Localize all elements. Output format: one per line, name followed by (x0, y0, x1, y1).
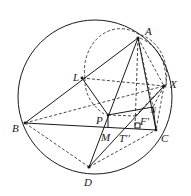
label-m: M (100, 131, 111, 143)
point-x (162, 84, 165, 87)
diagram-svg: A X N C B D L P M F' T'' (0, 0, 191, 196)
segment-lp (82, 78, 108, 115)
dashed-pf (108, 115, 135, 116)
point-a (136, 36, 139, 39)
point-p (107, 114, 110, 117)
label-n: N (149, 105, 157, 115)
dashed-ax (138, 38, 164, 86)
label-a: A (144, 25, 152, 37)
label-t-double-prime: T'' (119, 132, 130, 144)
geometry-diagram: A X N C B D L P M F' T'' (0, 0, 191, 196)
segment-bc (25, 123, 156, 130)
point-b (24, 122, 27, 125)
dashed-an (138, 38, 153, 107)
label-d: D (83, 176, 92, 188)
label-f-prime: F' (139, 115, 150, 127)
dashed-lx (82, 78, 164, 86)
label-p: P (95, 114, 103, 126)
label-l: L (72, 71, 79, 83)
dashed-circle-arc (84, 29, 166, 88)
dashed-arc-ax (140, 38, 166, 88)
segment-pn (108, 107, 153, 115)
label-x: X (169, 78, 178, 90)
segment-ab (25, 38, 138, 123)
segment-ad (89, 38, 138, 167)
label-c: C (161, 132, 169, 144)
point-l (81, 77, 84, 80)
point-d (87, 165, 90, 168)
label-b: B (12, 122, 19, 134)
point-c (155, 129, 158, 132)
